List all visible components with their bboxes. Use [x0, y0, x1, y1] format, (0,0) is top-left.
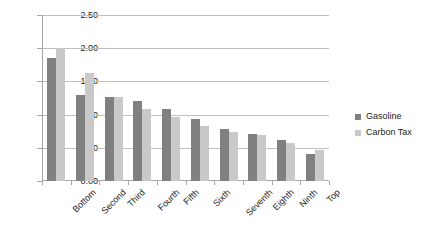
- bar-carbon-tax: [171, 117, 180, 181]
- bar-group: [157, 109, 186, 181]
- plot-area: [42, 15, 329, 181]
- bar-group: [214, 129, 243, 181]
- bar-gasoline: [306, 154, 315, 181]
- legend-swatch-icon: [355, 114, 361, 120]
- x-axis-tick-mark: [272, 181, 273, 185]
- bar-gasoline: [248, 134, 257, 181]
- bar-carbon-tax: [257, 135, 266, 181]
- legend-item-label: Gasoline: [366, 112, 402, 121]
- legend-item[interactable]: Carbon Tax: [355, 128, 412, 137]
- bar-carbon-tax: [286, 143, 295, 182]
- bar-carbon-tax: [200, 126, 209, 181]
- x-axis-category-label: Third: [126, 188, 147, 209]
- legend-swatch-icon: [355, 130, 361, 136]
- x-axis-category-label: Eighth: [271, 188, 295, 212]
- bar-gasoline: [162, 109, 171, 181]
- bar-group: [186, 119, 215, 181]
- x-axis-category-label: Top: [325, 188, 342, 205]
- x-axis-tick-mark: [99, 181, 100, 185]
- x-axis-category-label: Ninth: [298, 188, 319, 209]
- bar-gasoline: [220, 129, 229, 181]
- x-axis-tick-mark: [128, 181, 129, 185]
- x-axis-tick-mark: [243, 181, 244, 185]
- x-axis-category-label: Bottom: [71, 188, 98, 215]
- x-axis-tick-mark: [214, 181, 215, 185]
- bar-group: [300, 150, 329, 181]
- x-axis-tick-mark: [157, 181, 158, 185]
- bar-gasoline: [76, 95, 85, 181]
- x-axis-tick-mark: [71, 181, 72, 185]
- bar-group: [99, 97, 128, 181]
- bar-gasoline: [191, 119, 200, 181]
- legend-item-label: Carbon Tax: [366, 128, 412, 137]
- bar-group: [243, 134, 272, 181]
- bar-gasoline: [277, 140, 286, 181]
- x-axis-tick-mark: [329, 181, 330, 185]
- x-axis-category-label: Seventh: [245, 188, 275, 218]
- bar-gasoline: [105, 97, 114, 181]
- bar-gasoline: [133, 101, 142, 181]
- bar-group: [71, 73, 100, 181]
- bar-carbon-tax: [114, 97, 123, 181]
- x-axis-category-label: Sixth: [212, 188, 233, 209]
- bar-carbon-tax: [56, 48, 65, 181]
- x-axis-tick-mark: [300, 181, 301, 185]
- x-axis-category-label: Fourth: [156, 188, 181, 213]
- bar-group: [128, 101, 157, 181]
- x-axis-category-label: Second: [100, 188, 128, 216]
- bar-carbon-tax: [229, 132, 238, 181]
- bar-group: [272, 140, 301, 181]
- bar-group: [42, 48, 71, 181]
- x-axis-tick-mark: [186, 181, 187, 185]
- bar-chart: 2.502.001.501.000.500.00 BottomSecondThi…: [0, 0, 435, 235]
- bar-carbon-tax: [85, 73, 94, 181]
- legend-item[interactable]: Gasoline: [355, 112, 412, 121]
- bar-carbon-tax: [315, 150, 324, 181]
- bar-gasoline: [47, 58, 56, 182]
- chart-legend: GasolineCarbon Tax: [355, 112, 412, 144]
- x-axis-tick-mark: [42, 181, 43, 185]
- x-axis-category-label: Fifth: [183, 188, 202, 207]
- bar-carbon-tax: [142, 109, 151, 181]
